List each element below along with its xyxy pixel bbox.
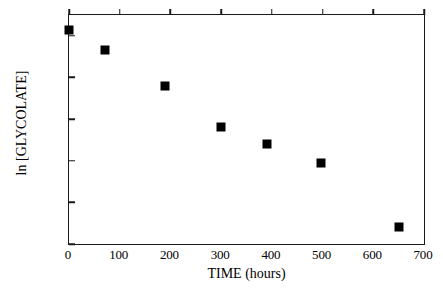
x-axis-tick-label: 500 xyxy=(312,248,331,262)
data-point xyxy=(65,25,74,34)
x-axis-tick-label: 400 xyxy=(261,248,280,262)
x-axis-tick-label: 300 xyxy=(211,248,230,262)
y-axis-tick xyxy=(69,77,75,79)
x-axis-tick-label: 0 xyxy=(65,248,71,262)
x-axis-tick xyxy=(423,9,425,15)
y-axis-title-text: ln [GLYCOLATE] xyxy=(14,70,30,175)
plot-frame xyxy=(68,14,425,245)
x-axis-tick xyxy=(119,9,121,15)
data-point xyxy=(316,158,325,167)
plot-area xyxy=(69,15,424,244)
data-point xyxy=(217,123,226,132)
x-axis-tick-label: 200 xyxy=(160,248,179,262)
data-point xyxy=(394,223,403,232)
x-axis-tick xyxy=(322,9,324,15)
data-point xyxy=(262,140,271,149)
x-axis-tick xyxy=(373,9,375,15)
y-axis-tick xyxy=(69,35,75,37)
x-axis-tick xyxy=(271,9,273,15)
y-axis-title: ln [GLYCOLATE] xyxy=(12,0,32,245)
y-axis-tick xyxy=(69,160,75,162)
y-axis-tick xyxy=(69,118,75,120)
x-axis-tick xyxy=(170,9,172,15)
x-axis-tick-label: 600 xyxy=(363,248,382,262)
y-axis-tick xyxy=(69,202,75,204)
data-point xyxy=(100,46,109,55)
x-axis-title: TIME (hours) xyxy=(68,266,425,282)
x-axis-tick xyxy=(220,9,222,15)
scatter-chart: ln [GLYCOLATE] TIME (hours) 010020030040… xyxy=(0,0,443,297)
y-axis-tick xyxy=(69,243,75,245)
x-axis-tick-label: 100 xyxy=(109,248,128,262)
x-axis-tick-label: 700 xyxy=(414,248,433,262)
x-axis-tick xyxy=(68,9,70,15)
data-point xyxy=(161,81,170,90)
